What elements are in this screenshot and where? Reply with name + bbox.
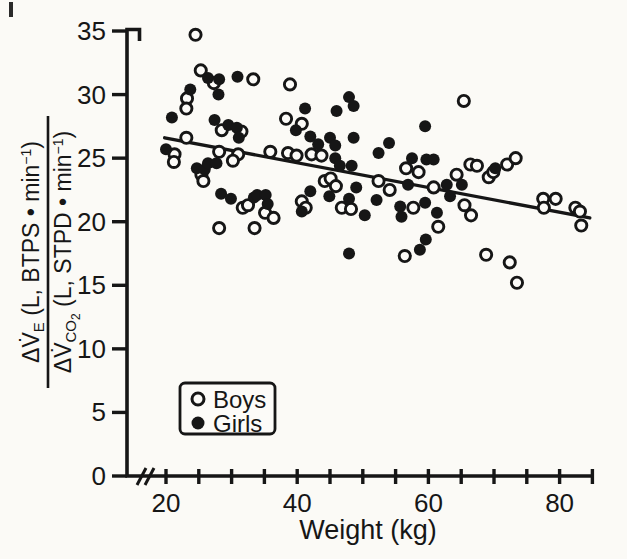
data-point-girls	[209, 114, 221, 126]
data-point-girls	[343, 193, 355, 205]
data-point-girls	[202, 72, 214, 84]
scan-artifact	[9, 2, 13, 17]
x-tick-label: 20	[152, 488, 181, 518]
data-point-boys	[471, 160, 482, 171]
data-point-boys	[428, 182, 439, 193]
data-point-girls	[420, 234, 432, 246]
data-point-boys	[458, 95, 469, 106]
x-tick-label: 60	[414, 488, 443, 518]
data-point-girls	[419, 120, 431, 132]
x-tick-label: 40	[283, 488, 312, 518]
data-point-boys	[504, 257, 515, 268]
data-point-girls	[213, 73, 225, 85]
data-point-boys	[465, 210, 476, 221]
y-tick-label: 0	[92, 461, 106, 491]
data-point-boys	[248, 74, 259, 85]
data-point-boys	[249, 222, 260, 233]
data-point-girls	[383, 137, 395, 149]
data-point-girls	[331, 105, 343, 117]
data-point-boys	[576, 220, 587, 231]
data-point-girls	[225, 193, 237, 205]
legend-label-girls: Girls	[213, 410, 262, 437]
data-point-girls	[312, 138, 324, 150]
y-axis-title-fraction: ΔV̇E (L, BTPS • min−1)ΔV̇CO2 (L, STPD • …	[18, 116, 83, 388]
data-point-girls	[431, 207, 443, 219]
data-point-boys	[268, 212, 279, 223]
y-axis-title-numerator: ΔV̇E (L, BTPS • min−1)	[18, 141, 47, 363]
data-points-layer	[160, 29, 587, 288]
data-point-boys	[433, 221, 444, 232]
data-point-girls	[232, 71, 244, 83]
data-point-girls	[350, 181, 362, 193]
legend-boys-marker-icon	[192, 393, 204, 405]
data-point-girls	[406, 152, 418, 164]
y-tick-label: 25	[77, 143, 106, 173]
data-point-girls	[428, 153, 440, 165]
data-point-girls	[211, 157, 223, 169]
data-point-girls	[441, 179, 453, 191]
data-point-girls	[346, 160, 358, 172]
data-point-boys	[181, 132, 192, 143]
data-point-girls	[304, 185, 316, 197]
data-point-girls	[231, 122, 243, 134]
data-point-boys	[451, 169, 462, 180]
data-point-girls	[160, 143, 172, 155]
legend-label-boys: Boys	[213, 386, 266, 413]
data-point-girls	[323, 190, 335, 202]
data-point-boys	[168, 156, 179, 167]
data-point-boys	[408, 202, 419, 213]
data-point-girls	[419, 197, 431, 209]
data-point-girls	[348, 100, 360, 112]
axes-layer: 0510152025303520406080	[77, 16, 594, 518]
data-point-boys	[265, 146, 276, 157]
data-point-boys	[384, 184, 395, 195]
legend-girls-marker-icon	[192, 417, 205, 430]
data-point-boys	[291, 150, 302, 161]
data-point-boys	[400, 163, 411, 174]
data-point-boys	[284, 79, 295, 90]
data-point-girls	[343, 248, 355, 260]
data-point-girls	[489, 162, 501, 174]
data-point-boys	[510, 153, 521, 164]
data-point-boys	[316, 150, 327, 161]
data-point-boys	[399, 250, 410, 261]
data-point-girls	[329, 139, 341, 151]
y-tick-label: 20	[77, 207, 106, 237]
data-point-boys	[481, 249, 492, 260]
data-point-boys	[330, 181, 341, 192]
scatter-figure: 0510152025303520406080 BoysGirls ΔV̇E (L…	[0, 0, 627, 559]
data-point-boys	[280, 113, 291, 124]
data-point-boys	[190, 29, 201, 40]
data-point-boys	[511, 277, 522, 288]
data-point-girls	[456, 179, 468, 191]
data-point-girls	[296, 206, 308, 218]
legend-box: BoysGirls	[180, 383, 275, 437]
data-point-boys	[538, 202, 549, 213]
data-point-boys	[214, 146, 225, 157]
data-point-boys	[345, 203, 356, 214]
data-point-boys	[574, 206, 585, 217]
data-point-girls	[299, 103, 311, 115]
data-point-boys	[373, 175, 384, 186]
data-point-boys	[214, 222, 225, 233]
y-tick-label: 30	[77, 80, 106, 110]
data-point-girls	[371, 194, 383, 206]
data-point-girls	[290, 124, 302, 136]
data-point-girls	[262, 198, 274, 210]
data-point-girls	[396, 211, 408, 223]
data-point-girls	[373, 147, 385, 159]
x-tick-label: 80	[545, 488, 574, 518]
y-tick-label: 5	[92, 397, 106, 427]
data-point-girls	[184, 83, 196, 95]
data-point-girls	[166, 111, 178, 123]
chart-svg: 0510152025303520406080 BoysGirls ΔV̇E (L…	[0, 0, 627, 559]
data-point-girls	[233, 132, 245, 144]
data-point-girls	[348, 132, 360, 144]
data-point-girls	[334, 160, 346, 172]
y-tick-label: 15	[77, 270, 106, 300]
data-point-girls	[212, 89, 224, 101]
data-point-girls	[359, 209, 371, 221]
data-point-girls	[414, 244, 426, 256]
data-point-girls	[394, 200, 406, 212]
y-tick-label: 35	[77, 16, 106, 46]
